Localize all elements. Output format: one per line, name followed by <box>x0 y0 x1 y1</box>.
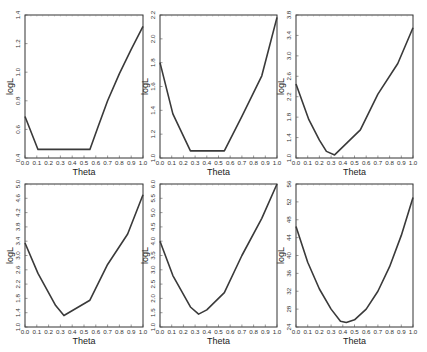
x-tick-label: 0.0 <box>292 328 301 335</box>
x-tick-label: 0.4 <box>202 328 211 335</box>
y-tick-label: 1.4 <box>14 308 21 317</box>
x-tick-label: 0.1 <box>303 159 312 166</box>
x-tick-label: 0.9 <box>261 159 270 166</box>
y-tick-label: 1.4 <box>149 105 156 114</box>
x-tick-label: 0.9 <box>261 328 270 335</box>
x-tick-label: 0.8 <box>115 328 124 335</box>
figure: 0.00.10.20.30.40.50.60.70.80.91.00.40.60… <box>0 0 427 352</box>
x-tick-label: 1.0 <box>409 328 418 335</box>
x-axis-label: Theta <box>72 336 95 346</box>
y-axis-label: logL <box>5 78 15 95</box>
plot-frame <box>160 15 277 158</box>
x-tick-label: 0.9 <box>127 328 136 335</box>
y-tick-label: 36 <box>285 269 292 276</box>
y-tick-label: 2.2 <box>14 279 21 288</box>
x-tick-label: 0.9 <box>397 328 406 335</box>
x-tick-label: 1.0 <box>139 159 148 166</box>
x-axis-label: Theta <box>207 167 230 177</box>
y-tick-label: 1.2 <box>14 39 21 48</box>
subplot-5: 0.00.10.20.30.40.50.60.70.80.91.01.01.52… <box>140 179 282 346</box>
subplot-6: 0.00.10.20.30.40.50.60.70.80.91.02428323… <box>276 180 418 346</box>
x-axis-label: Theta <box>207 336 230 346</box>
x-tick-label: 0.5 <box>214 328 223 335</box>
y-tick-label: 3.8 <box>285 10 292 19</box>
y-tick-label: 2.2 <box>149 10 156 19</box>
x-tick-label: 0.8 <box>115 159 124 166</box>
y-tick-label: 1.0 <box>14 67 21 76</box>
y-tick-label: 0.6 <box>14 125 21 134</box>
y-tick-label: 2.6 <box>14 265 21 274</box>
y-tick-label: 4.6 <box>14 193 21 202</box>
y-tick-label: 56 <box>285 180 292 187</box>
y-tick-label: 1.0 <box>285 153 292 162</box>
series-line <box>25 195 143 316</box>
y-tick-label: 2.5 <box>149 279 156 288</box>
x-tick-label: 0.5 <box>80 328 89 335</box>
y-tick-label: 1.0 <box>149 153 156 162</box>
y-tick-label: 3.4 <box>14 236 21 245</box>
x-tick-label: 0.7 <box>374 159 383 166</box>
y-tick-label: 1.6 <box>149 82 156 91</box>
y-tick-label: 3.0 <box>149 265 156 274</box>
x-tick-label: 0.6 <box>91 328 100 335</box>
x-tick-label: 0.8 <box>249 159 258 166</box>
series-line <box>296 28 413 155</box>
y-tick-label: 2.0 <box>149 34 156 43</box>
subplot-2: 0.00.10.20.30.40.50.60.70.80.91.01.01.21… <box>140 10 282 177</box>
series-line <box>296 197 413 322</box>
x-tick-label: 0.4 <box>68 328 77 335</box>
y-tick-label: 1.0 <box>149 322 156 331</box>
x-tick-label: 0.1 <box>303 328 312 335</box>
y-tick-label: 1.8 <box>149 58 156 67</box>
x-tick-label: 0.1 <box>167 159 176 166</box>
x-tick-label: 0.1 <box>167 328 176 335</box>
x-tick-label: 1.0 <box>409 159 418 166</box>
x-tick-label: 0.7 <box>374 328 383 335</box>
y-tick-label: 5.0 <box>149 208 156 217</box>
plot-frame <box>25 184 143 327</box>
x-tick-label: 0.2 <box>44 159 53 166</box>
y-tick-label: 4.2 <box>14 208 21 217</box>
y-tick-label: 28 <box>285 305 292 312</box>
x-tick-label: 0.2 <box>315 328 324 335</box>
x-tick-label: 0.8 <box>385 328 394 335</box>
x-tick-label: 1.0 <box>139 328 148 335</box>
x-axis-label: Theta <box>72 167 95 177</box>
y-tick-label: 44 <box>285 234 292 241</box>
x-tick-label: 0.4 <box>68 159 77 166</box>
plot-frame <box>160 184 277 327</box>
x-tick-label: 0.7 <box>238 328 247 335</box>
y-tick-label: 52 <box>285 198 292 205</box>
x-axis-label: Theta <box>343 336 366 346</box>
y-tick-label: 2.2 <box>285 92 292 101</box>
x-tick-label: 0.5 <box>350 328 359 335</box>
x-tick-label: 0.6 <box>362 159 371 166</box>
y-axis-label: logL <box>140 78 150 95</box>
y-tick-label: 0.8 <box>14 96 21 105</box>
x-tick-label: 0.4 <box>202 159 211 166</box>
x-tick-label: 0.1 <box>32 328 41 335</box>
x-tick-label: 0.3 <box>191 159 200 166</box>
y-tick-label: 4.0 <box>149 236 156 245</box>
x-tick-label: 0.6 <box>226 159 235 166</box>
x-tick-label: 0.7 <box>103 328 112 335</box>
y-tick-label: 2.0 <box>149 294 156 303</box>
x-tick-label: 0.9 <box>397 159 406 166</box>
y-tick-label: 1.8 <box>14 294 21 303</box>
x-tick-label: 0.0 <box>21 159 30 166</box>
y-tick-label: 32 <box>285 287 292 294</box>
x-tick-label: 0.5 <box>350 159 359 166</box>
subplot-1: 0.00.10.20.30.40.50.60.70.80.91.00.40.60… <box>5 10 148 177</box>
y-tick-label: 1.0 <box>14 322 21 331</box>
x-axis-label: Theta <box>343 167 366 177</box>
x-tick-label: 0.2 <box>44 328 53 335</box>
subplot-3: 0.00.10.20.30.40.50.60.70.80.91.01.01.41… <box>276 10 418 177</box>
y-tick-label: 5.0 <box>14 179 21 188</box>
y-axis-label: logL <box>276 247 286 264</box>
y-tick-label: 3.4 <box>285 31 292 40</box>
y-tick-label: 40 <box>285 252 292 259</box>
y-tick-label: 24 <box>285 323 292 330</box>
x-tick-label: 1.0 <box>273 328 282 335</box>
y-tick-label: 3.0 <box>14 251 21 260</box>
y-tick-label: 48 <box>285 216 292 223</box>
